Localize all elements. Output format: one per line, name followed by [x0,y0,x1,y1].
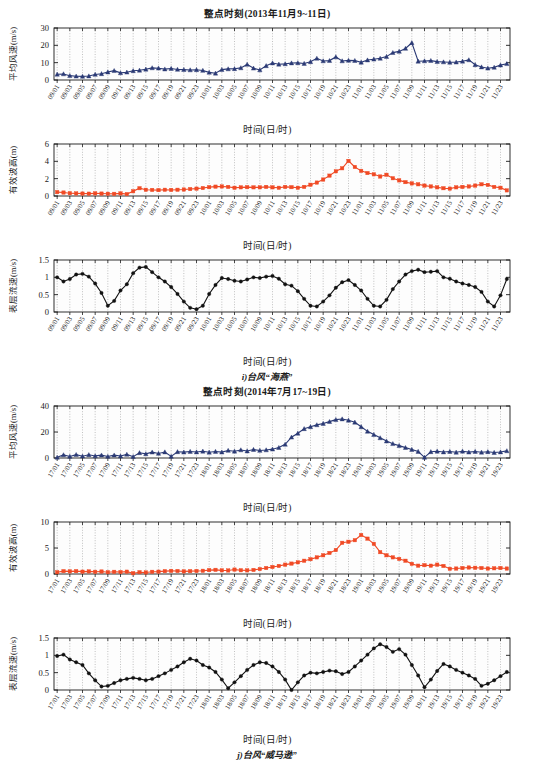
panel-b2: 051017/0117/0317/0517/0717/0917/1117/131… [0,514,534,616]
svg-text:09/07: 09/07 [84,199,99,217]
svg-text:17/23: 17/23 [185,461,200,479]
svg-text:11/17: 11/17 [452,83,467,101]
svg-text:09/05: 09/05 [71,315,86,333]
svg-text:11/05: 11/05 [376,199,391,217]
svg-text:09/19: 09/19 [160,83,175,101]
svg-text:17/15: 17/15 [135,461,150,479]
svg-text:09/03: 09/03 [59,83,74,101]
svg-text:17/13: 17/13 [122,461,137,479]
svg-text:11/15: 11/15 [439,199,454,217]
svg-text:19/15: 19/15 [439,461,454,479]
svg-text:18/23: 18/23 [337,693,352,711]
svg-text:18/23: 18/23 [337,577,352,595]
xaxis-label-b2: 时间(日/时) [0,616,534,630]
svg-text:18/03: 18/03 [211,577,226,595]
svg-text:18/03: 18/03 [211,461,226,479]
svg-text:18/09: 18/09 [249,693,264,711]
svg-text:0: 0 [45,453,49,463]
svg-text:17/17: 17/17 [147,693,162,711]
svg-text:19/09: 19/09 [401,693,416,711]
svg-text:40: 40 [41,401,50,411]
svg-text:17/21: 17/21 [173,577,188,595]
svg-text:10/17: 10/17 [299,199,314,217]
svg-text:18/05: 18/05 [223,461,238,479]
svg-text:17/07: 17/07 [84,693,99,711]
plot-frame [54,260,510,312]
svg-text:09/15: 09/15 [135,199,150,217]
plot-svg-a1: 010203009/0109/0309/0509/0709/0909/1109/… [0,20,534,122]
svg-text:09/23: 09/23 [185,83,200,101]
plot-b1: 0204017/0117/0317/0517/0717/0917/1117/13… [0,398,534,500]
svg-text:1: 1 [45,272,49,282]
svg-text:10/19: 10/19 [312,315,327,333]
xaxis-label-b3: 时间(日/时) [0,732,534,746]
svg-text:09/01: 09/01 [46,83,61,101]
svg-text:19/01: 19/01 [350,577,365,595]
svg-text:10/09: 10/09 [249,199,264,217]
svg-text:18/05: 18/05 [223,577,238,595]
svg-text:18/13: 18/13 [274,461,289,479]
svg-text:17/17: 17/17 [147,461,162,479]
caption-i-haiyan: i)台风“海燕” [0,370,534,383]
svg-text:11/21: 11/21 [477,315,492,333]
svg-text:09/17: 09/17 [147,83,162,101]
svg-text:11/09: 11/09 [401,199,416,217]
plot-svg-a3: 00.511.509/0109/0309/0509/0709/0909/1109… [0,252,534,354]
svg-text:19/09: 19/09 [401,461,416,479]
svg-text:18/17: 18/17 [299,693,314,711]
svg-text:11/03: 11/03 [363,315,378,333]
svg-text:1: 1 [45,650,49,660]
svg-text:10/21: 10/21 [325,315,340,333]
plot-frame [54,406,510,458]
svg-text:19/21: 19/21 [477,693,492,711]
svg-text:19/19: 19/19 [464,461,479,479]
svg-text:19/23: 19/23 [489,461,504,479]
svg-text:0: 0 [45,75,49,85]
chart-title-a: 整点时刻(2013年11月9~11日) [0,6,534,20]
panel-a1: 整点时刻(2013年11月9~11日) 010203009/0109/0309/… [0,6,534,122]
svg-text:10/01: 10/01 [198,199,213,217]
svg-text:17/09: 17/09 [97,461,112,479]
plot-a1: 010203009/0109/0309/0509/0709/0909/1109/… [0,20,534,122]
plot-svg-b2: 051017/0117/0317/0517/0717/0917/1117/131… [0,514,534,616]
svg-text:18/01: 18/01 [198,693,213,711]
svg-text:2: 2 [45,174,49,184]
svg-text:10/15: 10/15 [287,315,302,333]
svg-text:19/19: 19/19 [464,577,479,595]
svg-text:19/15: 19/15 [439,693,454,711]
svg-text:10/03: 10/03 [211,199,226,217]
svg-text:09/19: 09/19 [160,199,175,217]
svg-text:10/17: 10/17 [299,315,314,333]
svg-text:17/19: 17/19 [160,461,175,479]
svg-text:10: 10 [41,58,50,68]
svg-text:0: 0 [45,191,49,201]
svg-text:11/07: 11/07 [388,83,403,101]
svg-text:17/05: 17/05 [71,693,86,711]
svg-text:10/17: 10/17 [299,83,314,101]
svg-text:18/01: 18/01 [198,577,213,595]
svg-text:10/07: 10/07 [236,83,251,101]
svg-text:10/15: 10/15 [287,83,302,101]
svg-text:17/23: 17/23 [185,577,200,595]
svg-text:17/13: 17/13 [122,577,137,595]
y-axis-label: 有效波高(m) [8,524,18,572]
svg-text:17/03: 17/03 [59,577,74,595]
svg-text:10/03: 10/03 [211,83,226,101]
svg-text:11/21: 11/21 [477,199,492,217]
svg-text:09/17: 09/17 [147,199,162,217]
y-axis-label: 表层流速(m/s) [8,637,18,691]
svg-text:11/23: 11/23 [490,83,505,101]
svg-text:10/03: 10/03 [211,315,226,333]
svg-text:18/17: 18/17 [299,461,314,479]
svg-text:11/07: 11/07 [388,199,403,217]
svg-text:18/15: 18/15 [287,693,302,711]
svg-text:19/05: 19/05 [375,693,390,711]
svg-text:18/17: 18/17 [299,577,314,595]
svg-text:11/03: 11/03 [363,199,378,217]
svg-text:17/09: 17/09 [97,577,112,595]
svg-text:10/07: 10/07 [236,315,251,333]
svg-text:18/21: 18/21 [325,693,340,711]
svg-text:17/13: 17/13 [122,693,137,711]
svg-text:0: 0 [45,685,49,695]
svg-text:19/05: 19/05 [375,577,390,595]
